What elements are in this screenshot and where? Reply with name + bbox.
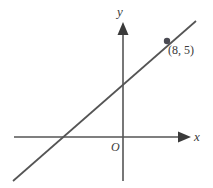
origin-label: O	[111, 141, 120, 153]
coordinate-plane-figure: y x O (8, 5)	[0, 0, 213, 188]
graph-canvas	[0, 0, 213, 188]
x-axis-arrowhead	[178, 132, 191, 143]
data-point-label: (8, 5)	[168, 44, 194, 56]
x-axis-label: x	[194, 130, 200, 143]
y-axis-label: y	[117, 5, 123, 18]
y-axis-arrowhead	[118, 22, 129, 35]
